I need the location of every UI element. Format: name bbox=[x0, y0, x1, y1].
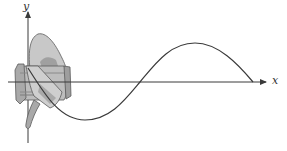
propeller-icon bbox=[15, 34, 71, 129]
y-axis-label: y bbox=[23, 1, 29, 12]
figure-canvas bbox=[0, 0, 287, 151]
propeller-hub-ring bbox=[15, 64, 26, 104]
x-axis-label: x bbox=[272, 75, 278, 86]
